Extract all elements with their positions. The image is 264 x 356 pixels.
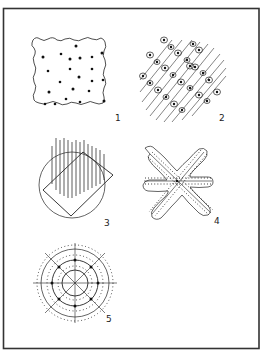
panel-1: 1: [32, 38, 121, 124]
arm-center-lines: [144, 152, 212, 214]
panel-5: 5: [33, 243, 117, 324]
panel-4-label: 4: [214, 216, 220, 226]
beaded-loops: [140, 37, 221, 113]
rotated-square: [43, 152, 113, 216]
panel-2: 2: [140, 37, 227, 123]
figure-plate: 1: [0, 0, 264, 356]
irregular-square: [32, 38, 106, 105]
dots: [42, 45, 106, 106]
frame-border: [4, 9, 260, 349]
panel-3: 3: [39, 138, 113, 228]
radial-lines: [33, 243, 117, 323]
panel-1-label: 1: [115, 113, 121, 123]
vertical-hatching: [52, 138, 104, 198]
panel-3-label: 3: [104, 218, 110, 228]
panel-4: 4: [143, 146, 220, 226]
panel-2-label: 2: [219, 113, 225, 123]
panel-5-label: 5: [106, 314, 112, 324]
center-dot: [176, 180, 178, 182]
